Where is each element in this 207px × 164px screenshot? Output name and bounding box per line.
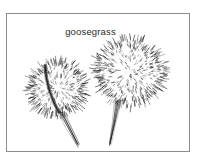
stem xyxy=(109,101,121,145)
burr-spikes xyxy=(17,50,97,125)
specimen-left xyxy=(17,50,97,147)
specimen-right xyxy=(85,30,173,145)
stem xyxy=(57,112,79,147)
plate-caption: goosegrass xyxy=(0,26,181,37)
burr-body xyxy=(17,50,97,125)
burr-body xyxy=(85,30,173,116)
figure-canvas: goosegrass xyxy=(0,0,207,164)
